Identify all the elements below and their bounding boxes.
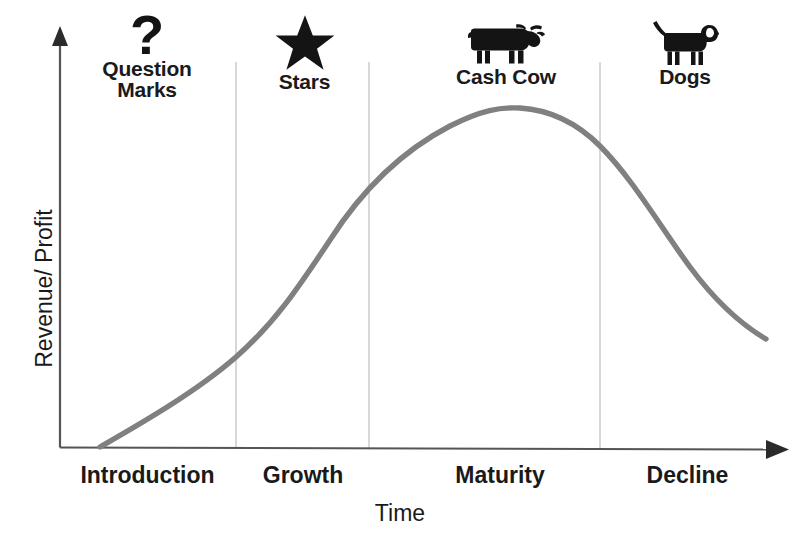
bcg-group-question-marks: ? Question Marks [62, 12, 232, 101]
stage-label-introduction: Introduction [60, 462, 235, 489]
question-mark-icon: ? [62, 12, 232, 58]
stage-label-maturity: Maturity [400, 462, 600, 489]
stage-label-decline: Decline [605, 462, 770, 489]
x-axis [60, 440, 789, 459]
x-axis-arrowhead [766, 440, 789, 459]
cow-icon [412, 16, 600, 66]
life-cycle-curve [100, 108, 766, 447]
bcg-label-question-marks: Question Marks [62, 58, 232, 101]
bcg-group-cash-cow: Cash Cow [412, 16, 600, 87]
bcg-group-stars: Stars [237, 14, 372, 92]
bcg-label-cash-cow: Cash Cow [412, 66, 600, 87]
bcg-label-dogs: Dogs [601, 66, 769, 87]
bcg-label-stars: Stars [237, 71, 372, 92]
dog-icon [601, 18, 769, 66]
y-axis-title: Revenue/ Profit [31, 179, 58, 399]
stage-label-growth: Growth [237, 462, 369, 489]
product-life-cycle-diagram: ? Question Marks Stars [0, 0, 801, 553]
bcg-group-dogs: Dogs [601, 18, 769, 87]
stage-dividers [236, 62, 600, 448]
x-axis-line [60, 448, 772, 450]
star-icon [237, 14, 372, 71]
x-axis-title: Time [300, 500, 500, 527]
